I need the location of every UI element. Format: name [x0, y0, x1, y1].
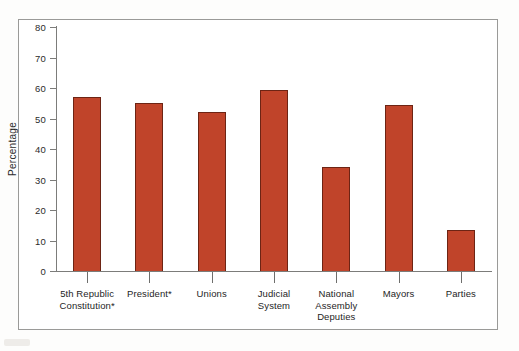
x-axis-label-line: Parties: [418, 288, 504, 300]
y-tick-label-80: 80: [35, 22, 46, 33]
bar-5: [385, 105, 413, 271]
x-tick-6: [461, 272, 462, 283]
y-tick-label-10: 10: [35, 235, 46, 246]
x-tick-5: [399, 272, 400, 283]
y-tick-label-40: 40: [35, 144, 46, 155]
x-tick-0: [87, 272, 88, 283]
y-tick-label-0: 0: [41, 266, 46, 277]
y-tick-label-20: 20: [35, 205, 46, 216]
x-tick-3: [274, 272, 275, 283]
chart-page: Percentage 80706050403020100 5th Republi…: [0, 0, 519, 351]
bar-1: [135, 103, 163, 271]
bar-0: [73, 97, 101, 271]
x-tick-4: [336, 272, 337, 283]
y-tick-label-60: 60: [35, 83, 46, 94]
x-tick-2: [212, 272, 213, 283]
y-tick-label-70: 70: [35, 52, 46, 63]
bar-3: [260, 90, 288, 271]
y-tick-label-30: 30: [35, 174, 46, 185]
y-tick-label-50: 50: [35, 113, 46, 124]
x-tick-1: [149, 272, 150, 283]
scan-artifact: [4, 339, 30, 346]
plot-area: [56, 27, 492, 271]
x-axis-label-line: Assembly: [293, 300, 379, 312]
x-axis-label-6: Parties: [418, 288, 504, 300]
y-axis-title: Percentage: [7, 122, 18, 176]
x-axis-label-line: Constitution*: [44, 300, 130, 312]
bar-4: [322, 167, 350, 271]
x-axis-label-line: Deputies: [293, 311, 379, 323]
bar-2: [198, 112, 226, 271]
y-tick-0: [50, 271, 56, 272]
bar-6: [447, 230, 475, 271]
